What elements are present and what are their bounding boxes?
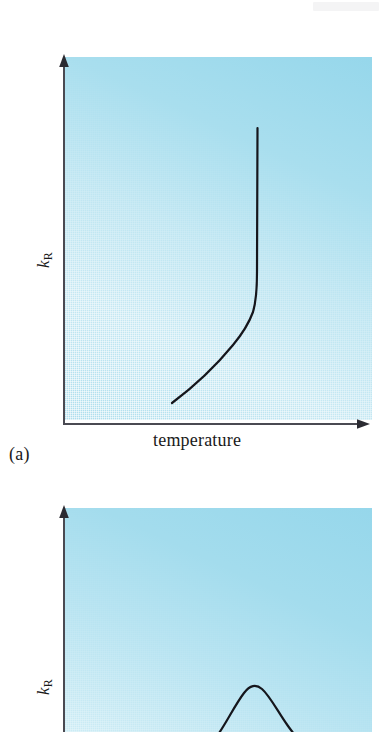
y-axis-label-symbol-b: k <box>34 687 53 695</box>
publisher-corner-mark <box>313 2 379 11</box>
data-curve-b <box>0 490 389 732</box>
y-axis-label-symbol-a: k <box>34 260 53 268</box>
curve-path-a <box>172 128 258 403</box>
y-axis-label-subscript-b: R <box>41 679 55 687</box>
y-axis-label-b: kR <box>34 679 56 695</box>
data-curve-a <box>0 40 389 470</box>
y-axis-label-a: kR <box>34 252 56 268</box>
curve-path-b <box>214 686 303 732</box>
panel-caption-a: (a) <box>9 444 30 465</box>
x-axis-label-a: temperature <box>153 430 241 451</box>
figure-page: kR temperature (a) kR <box>0 0 389 732</box>
figure-panel-b: kR <box>0 490 389 732</box>
figure-panel-a: kR temperature (a) <box>0 40 389 470</box>
y-axis-label-subscript-a: R <box>41 252 55 260</box>
